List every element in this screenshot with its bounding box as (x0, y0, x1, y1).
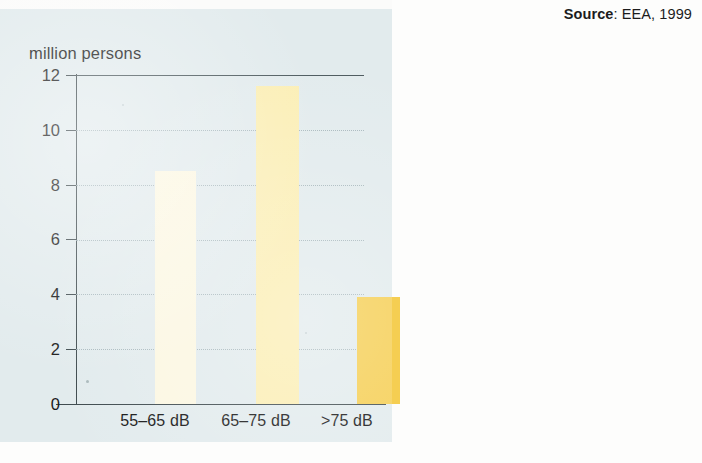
source-label: Source (564, 6, 614, 22)
source-credit: Source: EEA, 1999 (564, 6, 692, 22)
source-separator: : (614, 6, 622, 22)
scan-speck (86, 380, 89, 383)
bar-55-65-db[interactable] (155, 171, 196, 404)
x-tick-label-55-65-db: 55–65 dB (105, 412, 205, 430)
plot-top-border (76, 75, 364, 76)
y-tick-label-0: 0 (0, 395, 60, 414)
gridline-4 (76, 294, 364, 295)
y-tick-label-6: 6 (0, 230, 60, 249)
y-tick-label-12: 12 (0, 66, 60, 85)
gridline-2 (76, 349, 364, 350)
panel-top-edge (0, 0, 392, 9)
y-axis-title: million persons (29, 44, 141, 63)
scan-speck (305, 332, 307, 334)
gridline-8 (76, 185, 364, 186)
bar-gt-75-db[interactable] (357, 297, 400, 404)
y-tick-label-4: 4 (0, 285, 60, 304)
plot-area (76, 75, 364, 404)
y-tick-mark-0 (66, 404, 77, 405)
source-value: EEA, 1999 (622, 6, 692, 22)
x-axis-line (56, 404, 386, 405)
scan-speck (122, 104, 124, 106)
y-tick-label-8: 8 (0, 176, 60, 195)
bar-65-75-db[interactable] (256, 86, 299, 404)
gridline-6 (76, 240, 364, 241)
y-tick-label-2: 2 (0, 340, 60, 359)
x-tick-label-gt-75-db: >75 dB (307, 412, 387, 430)
x-tick-label-65-75-db: 65–75 dB (206, 412, 306, 430)
gridline-10 (76, 130, 364, 131)
y-tick-label-10: 10 (0, 121, 60, 140)
chart-panel: million persons 12 10 8 6 4 2 0 (0, 0, 392, 442)
